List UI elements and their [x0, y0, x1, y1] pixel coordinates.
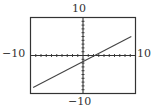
axes	[31, 18, 136, 94]
y-max-label: 10	[72, 3, 86, 15]
x-max-label: 10	[137, 48, 151, 60]
x-min-label: −10	[2, 48, 25, 60]
y-min-label: −10	[68, 96, 91, 108]
